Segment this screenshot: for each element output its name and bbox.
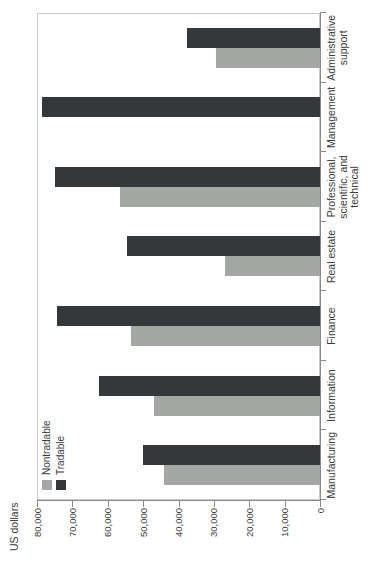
bar-tradable-4 (127, 237, 320, 257)
y-tick-mark (285, 501, 286, 507)
y-tick-label: 70,000 (67, 508, 78, 572)
legend-swatch-tradable (56, 480, 66, 490)
category-label-line: technical (349, 139, 361, 235)
y-tick-mark (320, 501, 321, 507)
bar-nontradable-3 (131, 326, 320, 346)
y-tick-mark (37, 501, 38, 507)
y-tick-label: 10,000 (279, 508, 290, 572)
y-tick-label: 20,000 (244, 508, 255, 572)
y-tick-label: 30,000 (208, 508, 219, 572)
bar-tradable-6 (42, 97, 320, 117)
bar-nontradable-4 (225, 257, 321, 277)
category-label: Administrativesupport (326, 0, 349, 96)
x-axis-line (320, 12, 321, 501)
y-tick-mark (143, 501, 144, 507)
bar-tradable-3 (57, 306, 321, 326)
legend-row: Tradable (56, 421, 66, 490)
legend-label: Nontradable (42, 421, 52, 475)
y-tick-label: 0 (315, 508, 326, 572)
category-label-line: support (338, 0, 350, 96)
bar-tradable-2 (99, 376, 320, 396)
y-axis-title: US dollars (8, 503, 20, 551)
y-tick-label: 50,000 (138, 508, 149, 572)
y-tick-mark (72, 501, 73, 507)
y-tick-label: 40,000 (173, 508, 184, 572)
bars-layer (37, 13, 320, 500)
bar-tradable-5 (55, 167, 320, 187)
y-tick-mark (108, 501, 109, 507)
bar-tradable-1 (143, 445, 320, 465)
y-tick-label: 80,000 (32, 508, 43, 572)
legend-label: Tradable (56, 436, 66, 475)
bar-nontradable-1 (164, 465, 320, 485)
bar-nontradable-7 (216, 48, 320, 68)
legend: NontradableTradable (42, 421, 66, 490)
rotated-chart: US dollars 010,00020,00030,00040,00050,0… (0, 0, 380, 572)
category-label-line: Administrative (326, 0, 338, 96)
y-tick-label: 60,000 (102, 508, 113, 572)
y-tick-mark (179, 501, 180, 507)
y-tick-mark (249, 501, 250, 507)
bar-tradable-7 (187, 28, 320, 48)
screenshot-canvas: US dollars 010,00020,00030,00040,00050,0… (0, 0, 380, 572)
legend-swatch-nontradable (42, 480, 52, 490)
bar-nontradable-5 (120, 187, 320, 207)
bar-nontradable-2 (154, 396, 320, 416)
y-tick-mark (214, 501, 215, 507)
legend-row: Nontradable (42, 421, 52, 490)
